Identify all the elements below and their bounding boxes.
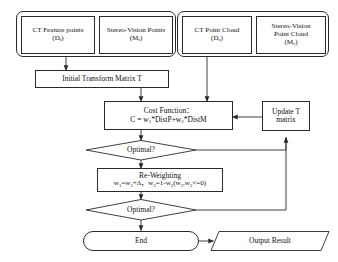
cost-function-formula: C = w1*DistP+w2*DistM — [130, 116, 206, 124]
stereo-vision-point-cloud-symbol: (Mc) — [284, 39, 297, 47]
flowchart-canvas: CT Feature points (Df) Stereo-Vision Poi… — [0, 0, 338, 262]
cost-function-box: Cost Function： C = w1*DistP+w2*DistM — [104, 101, 233, 130]
stereo-vision-points-symbol: (Mf) — [130, 35, 143, 43]
ct-point-cloud-symbol: (Dc) — [211, 35, 223, 43]
ct-feature-points-box: CT Feature points (Df) — [21, 16, 95, 54]
ct-feature-points-symbol: (Df) — [52, 35, 63, 43]
decision-optimal-1-label: Optimal? — [86, 145, 196, 154]
reweighting-formula: w1=w1+Δ，w2=1-w2(w1,w2<=0) — [114, 180, 206, 188]
ct-point-cloud-box: CT Point Cloud (Dc) — [182, 16, 252, 54]
update-t-matrix-label-line2: matrix — [276, 116, 296, 124]
connector-optimal-1-feedback-to-update-t — [196, 138, 286, 151]
point-cloud-group: CT Point Cloud (Dc) Stereo-Vision Point … — [177, 11, 329, 57]
reweighting-box: Re-Weighting w1=w1+Δ，w2=1-w2(w1,w2<=0) — [97, 168, 223, 192]
end-label: End — [135, 237, 147, 245]
update-t-matrix-box: Update T matrix — [262, 101, 310, 131]
end-terminator: End — [83, 231, 199, 251]
stereo-vision-point-cloud-box: Stereo-Vision Point Cloud (Mc) — [256, 16, 326, 54]
initial-transform-matrix-label: Initial Transform Matrix T — [62, 75, 142, 83]
stereo-vision-points-box: Stereo-Vision Points (Mf) — [99, 16, 173, 54]
initial-transform-matrix-box: Initial Transform Matrix T — [35, 70, 169, 88]
output-result-label: Output Result — [211, 236, 329, 245]
decision-optimal-2-label: Optimal? — [86, 205, 196, 214]
feature-points-group: CT Feature points (Df) Stereo-Vision Poi… — [16, 11, 176, 57]
